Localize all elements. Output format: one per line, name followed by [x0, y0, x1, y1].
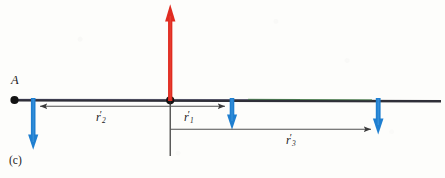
node-a-dot — [10, 96, 18, 104]
subfigure-label: (c) — [9, 155, 22, 167]
free-body-diagram — [0, 0, 445, 178]
load-arrow-2 — [227, 98, 237, 130]
r1-subscript: 1 — [190, 116, 194, 125]
r2-subscript: 2 — [102, 116, 106, 125]
point-a-label: A — [11, 74, 19, 87]
r3-subscript: 3 — [292, 139, 296, 148]
load-arrow-3 — [373, 98, 384, 135]
dimension-label-r3: r′3 — [286, 133, 296, 148]
resultant-arrow-up — [165, 4, 175, 101]
load-arrow-1 — [28, 98, 38, 150]
dimension-label-r2: r′2 — [96, 110, 106, 125]
figure-canvas: A r′2 r′1 r′3 (c) — [0, 0, 445, 178]
dimension-label-r1: r′1 — [184, 110, 194, 125]
